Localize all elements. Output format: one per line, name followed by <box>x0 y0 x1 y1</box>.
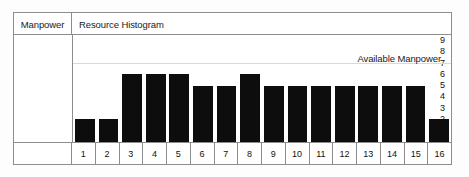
histogram-bar <box>288 86 308 142</box>
bar-cell <box>238 35 262 142</box>
plot-area: Available Manpower <box>73 35 451 142</box>
x-axis-tick-3: 3 <box>120 143 144 165</box>
histogram-bar <box>193 86 213 142</box>
bar-cell <box>333 35 357 142</box>
histogram-bar <box>122 74 142 142</box>
page-title: Resource Histogram <box>79 19 164 30</box>
manpower-axis-header-label: Manpower <box>21 19 65 30</box>
x-axis-tick-8: 8 <box>238 143 262 165</box>
x-axis-tick-13: 13 <box>357 143 381 165</box>
x-axis-tick-9: 9 <box>262 143 286 165</box>
chart-title-container: Resource Histogram <box>72 13 164 35</box>
histogram-bar <box>335 86 355 142</box>
bar-cell <box>120 35 144 142</box>
bar-cell <box>309 35 333 142</box>
manpower-axis-header: Manpower <box>14 13 72 35</box>
histogram-bar <box>429 119 449 142</box>
bar-cell <box>73 35 97 142</box>
bar-cell <box>262 35 286 142</box>
x-axis-tick-2: 2 <box>96 143 120 165</box>
resource-histogram-figure: Manpower Resource Histogram 987654321 Av… <box>0 0 469 177</box>
bar-cell <box>380 35 404 142</box>
x-axis-tick-14: 14 <box>381 143 405 165</box>
bar-cell <box>191 35 215 142</box>
histogram-bar <box>146 74 166 142</box>
bar-cell <box>97 35 121 142</box>
chart-frame: Manpower Resource Histogram 987654321 Av… <box>13 12 452 165</box>
bar-cell <box>286 35 310 142</box>
bar-series <box>73 35 451 142</box>
x-axis-tick-12: 12 <box>333 143 357 165</box>
histogram-bar <box>240 74 260 142</box>
histogram-bar <box>169 74 189 142</box>
chart-header: Manpower Resource Histogram <box>14 13 451 35</box>
x-axis-tick-15: 15 <box>405 143 429 165</box>
x-axis-tick-4: 4 <box>143 143 167 165</box>
histogram-bar <box>99 119 119 142</box>
x-axis-tick-16: 16 <box>428 143 451 165</box>
bar-cell <box>215 35 239 142</box>
bar-cell <box>427 35 451 142</box>
x-axis-tick-5: 5 <box>167 143 191 165</box>
x-axis-tick-10: 10 <box>286 143 310 165</box>
bar-cell <box>144 35 168 142</box>
x-axis-corner-cell <box>14 143 72 165</box>
x-axis-tick-1: 1 <box>72 143 96 165</box>
x-axis-tick-11: 11 <box>310 143 334 165</box>
x-axis-tick-7: 7 <box>215 143 239 165</box>
histogram-bar <box>75 119 95 142</box>
histogram-bar <box>311 86 331 142</box>
x-axis-tick-6: 6 <box>191 143 215 165</box>
bar-cell <box>404 35 428 142</box>
x-axis-tick-labels: 12345678910111213141516 <box>72 143 451 165</box>
histogram-bar <box>358 86 378 142</box>
histogram-bar <box>406 86 426 142</box>
histogram-bar <box>382 86 402 142</box>
histogram-bar <box>264 86 284 142</box>
x-axis-row: 12345678910111213141516 <box>14 143 451 165</box>
histogram-bar <box>217 86 237 142</box>
bar-cell <box>357 35 381 142</box>
bar-cell <box>168 35 192 142</box>
